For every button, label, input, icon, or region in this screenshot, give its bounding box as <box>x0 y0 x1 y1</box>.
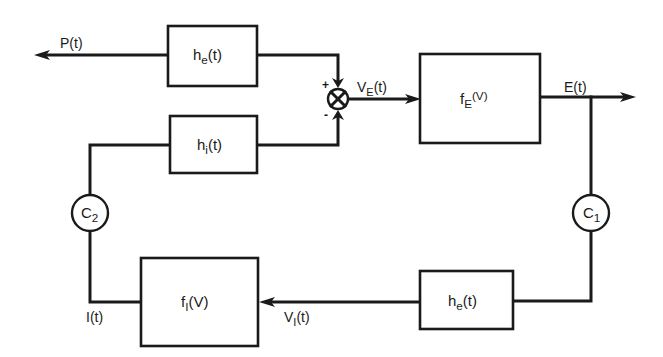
block-hi-label: hi(t) <box>197 137 222 156</box>
signal-ve-label: VE(t) <box>357 80 387 98</box>
block-diagram-canvas <box>0 0 663 357</box>
coupling-c1-label: C1 <box>583 205 600 224</box>
wire-he-to-sum <box>257 55 338 80</box>
block-he-top-label: he(t) <box>193 47 222 66</box>
block-he-bottom-label: he(t) <box>448 293 477 312</box>
summing-minus-sign: - <box>324 109 328 121</box>
summing-junction-icon <box>328 89 348 109</box>
wire-c1-to-he <box>513 231 591 301</box>
signal-i-label: I(t) <box>86 310 103 324</box>
wire-hi-to-sum <box>257 118 338 145</box>
wire-c2-to-hi <box>90 145 170 195</box>
block-fi-label: fI(V) <box>181 294 208 313</box>
coupling-c2-label: C2 <box>81 205 98 224</box>
summing-plus-sign: + <box>322 79 329 91</box>
wire-fi-to-c2 <box>90 231 141 302</box>
signal-p-label: P(t) <box>60 36 83 50</box>
signal-vi-label: VI(t) <box>284 310 310 328</box>
block-fe-label: fE(V) <box>460 90 488 110</box>
signal-e-label: E(t) <box>564 80 587 94</box>
